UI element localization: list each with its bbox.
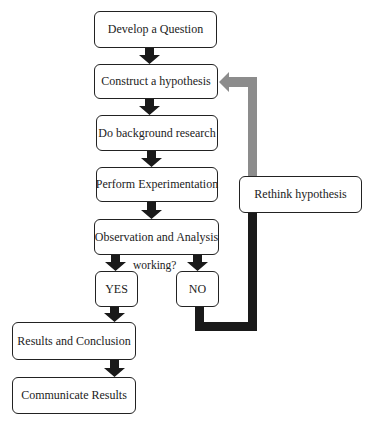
step-perform-experimentation: Perform Experimentation	[96, 167, 218, 202]
step-no: NO	[176, 271, 219, 307]
arrow-down-icon	[141, 151, 162, 167]
decision-label: working?	[133, 259, 176, 271]
feedback-arrow-gray	[219, 72, 257, 176]
step-rethink-hypothesis: Rethink hypothesis	[239, 176, 362, 213]
step-label: Results and Conclusion	[17, 334, 130, 349]
arrow-down-icon	[105, 255, 126, 271]
step-label: Observation and Analysis	[95, 230, 218, 245]
step-label: Develop a Question	[108, 22, 203, 37]
step-label: YES	[105, 282, 128, 297]
arrow-down-icon	[104, 307, 125, 322]
arrow-down-icon	[187, 255, 208, 271]
arrow-down-icon	[104, 360, 125, 377]
arrow-down-icon	[141, 202, 162, 219]
step-yes: YES	[95, 271, 138, 307]
flowchart-canvas: Develop a Question Construct a hypothesi…	[0, 0, 372, 430]
step-label: Perform Experimentation	[96, 177, 218, 192]
step-develop-question: Develop a Question	[94, 11, 217, 48]
step-label: Construct a hypothesis	[101, 74, 210, 89]
step-results-conclusion: Results and Conclusion	[12, 322, 136, 360]
step-label: Do background research	[98, 126, 215, 141]
step-label: NO	[189, 282, 206, 297]
arrow-down-icon	[139, 99, 160, 115]
step-label: Rethink hypothesis	[254, 187, 346, 202]
step-observation-analysis: Observation and Analysis	[94, 219, 219, 255]
arrow-down-icon	[139, 48, 160, 64]
step-construct-hypothesis: Construct a hypothesis	[94, 64, 218, 99]
step-label: Communicate Results	[21, 388, 127, 403]
step-background-research: Do background research	[96, 115, 218, 151]
step-communicate-results: Communicate Results	[12, 377, 136, 414]
